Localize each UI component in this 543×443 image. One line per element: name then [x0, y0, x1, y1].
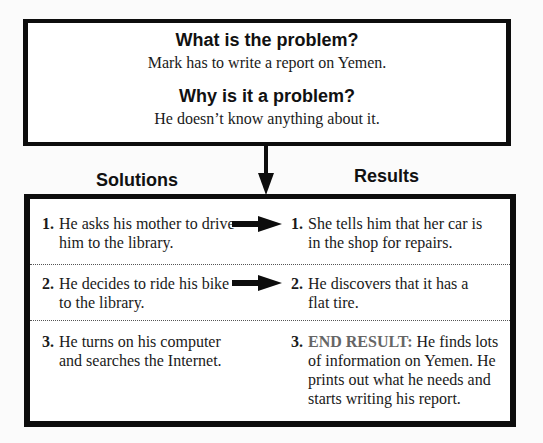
down-arrow-icon: [258, 145, 274, 195]
solution-text: He turns on his computer and searches th…: [42, 332, 242, 370]
why-question: Why is it a problem?: [28, 86, 506, 107]
result-number: 1.: [291, 214, 303, 233]
why-answer: He doesn’t know anything about it.: [28, 110, 506, 128]
solution-number: 2.: [42, 274, 54, 293]
result-number: 2.: [291, 274, 303, 293]
result-item-2: 2. He discovers that it has a flat tire.: [291, 274, 491, 312]
result-text: He discovers that it has a flat tire.: [291, 274, 491, 312]
problem-answer: Mark has to write a report on Yemen.: [28, 54, 506, 72]
problem-box: What is the problem? Mark has to write a…: [23, 19, 511, 146]
solution-item-3: 3. He turns on his computer and searches…: [42, 332, 242, 370]
solution-number: 3.: [42, 332, 54, 351]
result-item-1: 1. She tells him that her car is in the …: [291, 214, 491, 252]
right-arrow-icon: [232, 275, 282, 291]
solution-text: He asks his mother to drive him to the l…: [42, 214, 242, 252]
solutions-header: Solutions: [96, 170, 178, 191]
right-arrow-icon: [232, 216, 282, 232]
row-divider: [30, 320, 510, 321]
result-item-3: 3. END RESULT: He finds lots of informat…: [291, 332, 501, 408]
result-text: She tells him that her car is in the sho…: [291, 214, 491, 252]
solution-text: He decides to ride his bike to the libra…: [42, 274, 242, 312]
row-divider: [30, 264, 510, 265]
end-result-label: END RESULT:: [308, 333, 412, 350]
solution-item-1: 1. He asks his mother to drive him to th…: [42, 214, 242, 252]
results-header: Results: [354, 166, 419, 187]
solution-item-2: 2. He decides to ride his bike to the li…: [42, 274, 242, 312]
result-number: 3.: [291, 332, 303, 351]
solution-number: 1.: [42, 214, 54, 233]
problem-question: What is the problem?: [28, 30, 506, 51]
